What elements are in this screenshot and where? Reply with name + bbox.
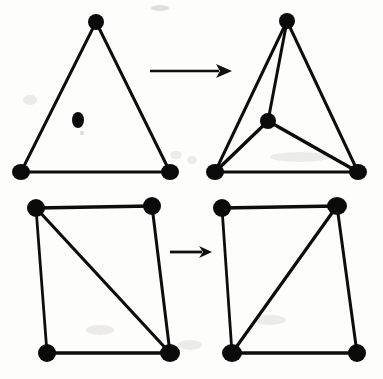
mesh-vertex-top-left-apex [88,14,104,30]
mesh-vertex-bottom-right-bottom-left [222,344,242,362]
mesh-edge-top-right-spoke-to-apex [268,21,287,121]
mesh-vertex-top-right-apex [279,13,295,29]
mesh-edge-bottom-right-left-side [222,208,232,353]
mesh-panel-layer [12,13,367,362]
mesh-edge-top-left-right-side [96,22,170,172]
smudge-near-top-base [170,151,182,159]
mesh-edge-top-right-spoke-to-bottom-left [215,121,268,172]
mesh-vertex-top-right-bottom-left [206,164,224,180]
mesh-edge-bottom-left-top-side [36,206,152,208]
mesh-figure-svg [0,0,383,379]
figure-container [0,0,383,379]
mesh-vertex-bottom-right-top-right [327,197,347,215]
smudge-between-quads [178,340,202,350]
transformation-arrow-top [150,64,232,78]
mesh-vertex-top-left-bottom-left [12,164,30,180]
smudge-right-base-shadow [270,152,330,162]
mesh-edge-top-right-left-side [215,21,287,172]
smudge-below-top-right-base [187,156,197,164]
mesh-vertex-bottom-left-top-left [27,199,45,217]
mesh-vertex-bottom-left-bottom-right [160,344,180,362]
mesh-edge-bottom-right-right-side [337,206,357,353]
mesh-edge-bottom-right-diagonal [232,206,337,353]
mesh-vertex-bottom-left-top-right [143,197,161,215]
mesh-vertex-top-right-bottom-right [349,164,367,180]
mesh-vertex-bottom-right-top-left [213,199,231,217]
speck-top-center [151,5,169,11]
mesh-vertex-bottom-right-bottom-right [348,344,366,362]
mesh-edge-bottom-left-right-side [152,206,170,353]
mesh-edge-bottom-right-top-side [222,206,337,208]
mesh-edge-bottom-left-left-side [36,208,47,353]
smudge-left-of-triangle [23,95,37,105]
smudge-bottom-left-quad [86,325,114,335]
mesh-panel-top-left [12,14,179,180]
transformation-arrow-bottom [170,246,212,258]
speck-below-interior-point [80,131,84,135]
mesh-vertex-bottom-left-bottom-left [38,344,56,362]
mesh-panel-bottom-left [27,197,180,362]
mesh-vertex-top-left-bottom-right [161,164,179,180]
mesh-vertex-top-left-interior-free-point [72,112,84,128]
mesh-vertex-top-right-interior-connected-point [260,113,276,129]
mesh-edge-top-right-right-side [287,21,358,172]
mesh-panel-bottom-right [213,197,366,362]
